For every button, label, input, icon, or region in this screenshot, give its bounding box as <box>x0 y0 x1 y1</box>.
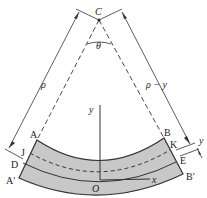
label-rho-minus-y: ρ − y <box>145 79 168 90</box>
label-y-offset: y <box>198 135 204 146</box>
label-C: C <box>95 6 102 17</box>
arrowhead-icon <box>74 12 79 19</box>
label-B: B <box>164 127 171 138</box>
label-origin: O <box>92 183 99 194</box>
extension-line-K <box>176 143 195 150</box>
arrowhead-icon <box>9 141 15 148</box>
arrowhead-icon <box>122 12 127 19</box>
label-y-axis: y <box>88 104 94 115</box>
rho-minus-y-dimension-line <box>122 12 190 144</box>
label-B-prime: B′ <box>186 171 195 182</box>
beam-segment <box>19 138 183 195</box>
label-K: K <box>170 139 178 150</box>
label-theta: θ <box>96 40 101 51</box>
arrowhead-icon <box>184 136 190 144</box>
label-A-prime: A′ <box>6 175 15 186</box>
label-rho: ρ <box>40 79 46 90</box>
extension-line-right-top <box>99 9 122 20</box>
label-A: A <box>30 129 38 140</box>
label-J: J <box>21 147 25 158</box>
label-x-axis: x <box>151 174 157 185</box>
label-D: D <box>11 159 18 170</box>
curved-beam-diagram: C θ ρ ρ − y y y x O A B J K D E A′ B′ <box>0 0 207 198</box>
label-E: E <box>180 155 186 166</box>
radial-line-left <box>37 20 99 140</box>
